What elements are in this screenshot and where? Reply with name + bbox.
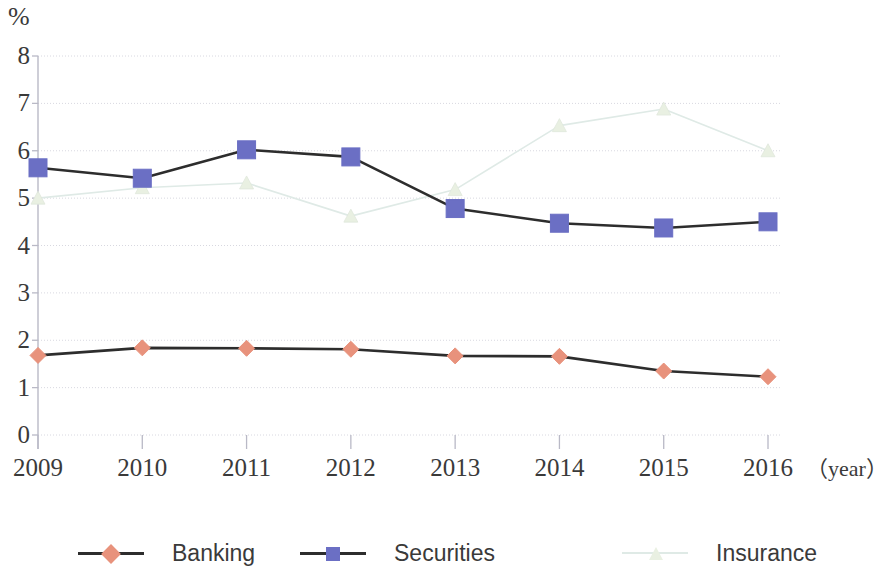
legend-item-banking[interactable]: Banking <box>78 534 255 573</box>
x-tick-label: 2011 <box>199 455 295 480</box>
series-line-insurance <box>38 109 768 216</box>
data-point-banking <box>134 340 150 356</box>
y-tick-label: 4 <box>2 233 30 258</box>
legend-swatch-insurance <box>622 544 688 564</box>
data-point-banking <box>760 369 776 385</box>
legend-item-insurance[interactable]: Insurance <box>622 534 817 573</box>
data-point-securities <box>655 219 673 237</box>
y-tick-label: 6 <box>2 138 30 163</box>
y-tick-label: 2 <box>2 327 30 352</box>
x-tick-label: 2014 <box>511 455 607 480</box>
legend-item-securities[interactable]: Securities <box>300 534 495 573</box>
data-point-securities <box>550 214 568 232</box>
data-point-banking <box>447 348 463 364</box>
legend-marker-banking <box>101 544 121 564</box>
legend-marker-securities <box>326 547 340 561</box>
data-point-securities <box>133 169 151 187</box>
x-tick-label: 2010 <box>94 455 190 480</box>
legend-swatch-securities <box>300 544 366 564</box>
x-tick-label: 2016 <box>720 455 816 480</box>
data-point-banking <box>656 363 672 379</box>
x-tick-label: 2009 <box>0 455 86 480</box>
legend-marker-insurance <box>649 547 663 560</box>
data-point-insurance <box>657 102 671 115</box>
y-tick-label: 8 <box>2 43 30 68</box>
data-point-insurance <box>448 183 462 196</box>
legend-label-banking: Banking <box>172 540 255 567</box>
x-axis-title: （year） <box>806 458 878 480</box>
series-line-securities <box>38 150 768 228</box>
legend-swatch-banking <box>78 544 144 564</box>
x-tick-label: 2013 <box>407 455 503 480</box>
chart-legend: BankingSecuritiesInsurance <box>0 534 802 573</box>
y-tick-label: 3 <box>2 280 30 305</box>
data-point-banking <box>343 341 359 357</box>
y-tick-label: 1 <box>2 375 30 400</box>
data-point-banking <box>30 347 46 363</box>
legend-label-insurance: Insurance <box>716 540 817 567</box>
data-point-insurance <box>761 144 775 157</box>
data-point-securities <box>29 159 47 177</box>
data-point-securities <box>446 200 464 218</box>
y-tick-label: 5 <box>2 185 30 210</box>
legend-label-securities: Securities <box>394 540 495 567</box>
data-point-banking <box>239 340 255 356</box>
data-point-banking <box>551 348 567 364</box>
y-tick-label: 7 <box>2 90 30 115</box>
data-point-securities <box>342 148 360 166</box>
x-tick-label: 2012 <box>303 455 399 480</box>
data-point-securities <box>759 213 777 231</box>
x-tick-label: 2015 <box>616 455 712 480</box>
data-point-securities <box>238 141 256 159</box>
y-tick-label: 0 <box>2 422 30 447</box>
